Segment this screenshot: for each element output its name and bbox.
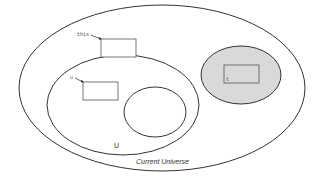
venn-diagram: this u t U Current Universe <box>0 0 321 177</box>
universe-u-label: U <box>114 142 119 149</box>
u-object-box <box>83 82 118 100</box>
t-object-box <box>224 65 259 83</box>
u-pointer-label: u <box>70 75 73 81</box>
t-label: t <box>226 77 229 83</box>
this-object-box <box>101 39 136 57</box>
current-universe-label: Current Universe <box>136 158 189 165</box>
inner-region-ellipse <box>124 87 186 137</box>
this-pointer-label: this <box>77 32 89 38</box>
